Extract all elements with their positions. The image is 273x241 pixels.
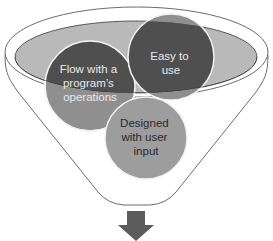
- funnel-diagram: Flow with a program’s operations Easy to…: [0, 0, 273, 241]
- label-flow: Flow with a program’s operations: [60, 63, 121, 103]
- down-arrow-icon: [118, 211, 154, 241]
